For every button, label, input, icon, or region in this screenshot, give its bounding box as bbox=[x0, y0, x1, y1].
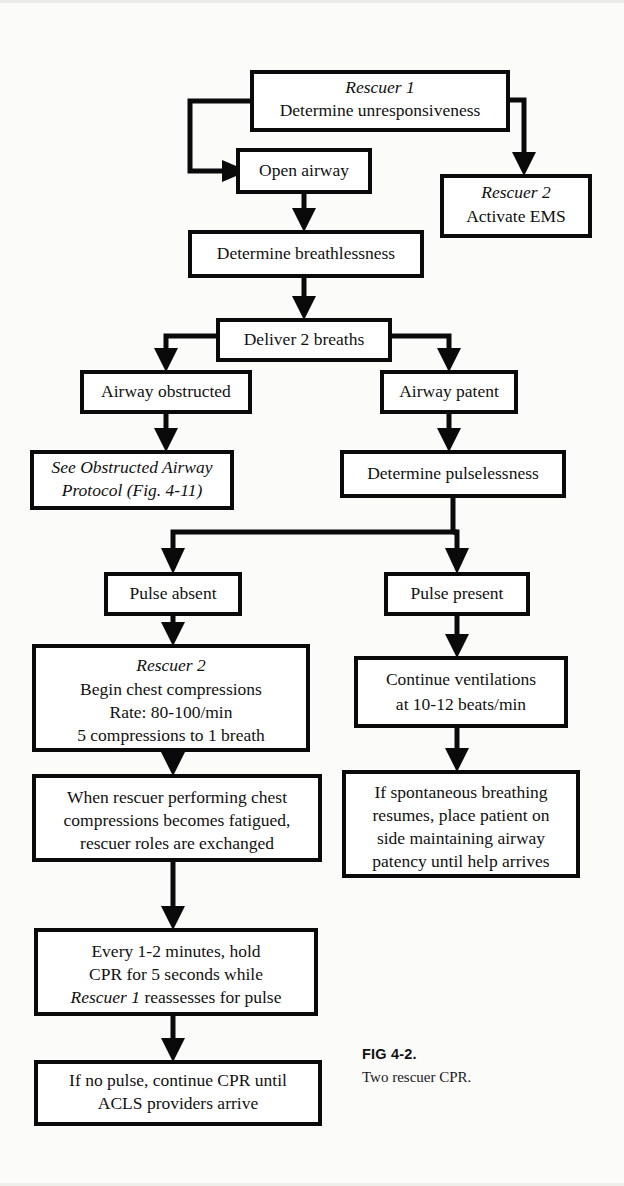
scan-edge-top bbox=[0, 0, 624, 3]
node-roles-exchanged-line-2: rescuer roles are exchanged bbox=[80, 833, 274, 853]
node-continue-ventilations-line-1: at 10-12 beats/min bbox=[396, 694, 527, 714]
connector-airway-patent-to-pulselessness bbox=[437, 412, 461, 452]
node-pulse-absent[interactable]: Pulse absent bbox=[106, 574, 240, 614]
node-spontaneous-breathing[interactable]: If spontaneous breathing resumes, place … bbox=[344, 772, 578, 876]
node-determine-pulselessness[interactable]: Determine pulselessness bbox=[342, 452, 564, 496]
node-acls-arrive-line-0: If no pulse, continue CPR until bbox=[69, 1070, 287, 1090]
node-reassess-pulse-lead: Rescuer 1 bbox=[70, 987, 141, 1007]
node-spontaneous-breathing-line-0: If spontaneous breathing bbox=[374, 782, 547, 802]
node-continue-ventilations-line-0: Continue ventilations bbox=[386, 669, 536, 689]
node-acls-arrive-line-1: ACLS providers arrive bbox=[98, 1093, 259, 1113]
connector-pulse-absent-to-compressions bbox=[161, 614, 185, 646]
node-determine-breathlessness-label: Determine breathlessness bbox=[217, 243, 396, 263]
figure-caption-text: Two rescuer CPR. bbox=[362, 1069, 471, 1086]
node-pulse-absent-label: Pulse absent bbox=[129, 583, 216, 603]
node-airway-patent[interactable]: Airway patent bbox=[382, 372, 516, 412]
node-pulse-present[interactable]: Pulse present bbox=[386, 574, 528, 614]
connector-deliver-breaths-to-airway-patent bbox=[390, 336, 461, 372]
node-determine-breathlessness[interactable]: Determine breathlessness bbox=[190, 232, 422, 276]
node-begin-compressions-line-2: Rate: 80-100/min bbox=[110, 702, 233, 722]
node-deliver-2-breaths[interactable]: Deliver 2 breaths bbox=[218, 320, 390, 360]
connector-reassess-to-acls bbox=[161, 1014, 185, 1062]
connector-ventilations-to-spontaneous-breathing bbox=[445, 726, 469, 772]
node-pulse-present-label: Pulse present bbox=[411, 583, 504, 603]
node-determine-pulselessness-label: Determine pulselessness bbox=[367, 463, 539, 483]
node-open-airway-label: Open airway bbox=[259, 160, 349, 180]
node-deliver-2-breaths-label: Deliver 2 breaths bbox=[244, 329, 365, 349]
node-spontaneous-breathing-line-2: side maintaining airway bbox=[377, 828, 545, 848]
node-rescuer1-line-1: Determine unresponsiveness bbox=[280, 100, 481, 120]
node-obstructed-protocol[interactable]: See Obstructed Airway Protocol (Fig. 4-1… bbox=[32, 452, 232, 508]
connector-pulselessness-to-pulse-present bbox=[445, 532, 469, 574]
node-spontaneous-breathing-line-1: resumes, place patient on bbox=[373, 805, 550, 825]
node-rescuer1[interactable]: Rescuer 1 Determine unresponsiveness bbox=[252, 72, 508, 130]
node-reassess-pulse-line-2: Rescuer 1 reassesses for pulse bbox=[70, 987, 282, 1007]
flowchart-canvas: Rescuer 1 Determine unresponsiveness Ope… bbox=[0, 0, 624, 1186]
node-reassess-pulse-line-1: CPR for 5 seconds while bbox=[89, 964, 263, 984]
figure-page: Rescuer 1 Determine unresponsiveness Ope… bbox=[0, 0, 624, 1186]
node-roles-exchanged-line-0: When rescuer performing chest bbox=[67, 787, 287, 807]
connector-open-airway-to-breathlessness bbox=[292, 192, 316, 232]
node-continue-ventilations[interactable]: Continue ventilations at 10-12 beats/min bbox=[356, 658, 566, 726]
node-acls-arrive[interactable]: If no pulse, continue CPR until ACLS pro… bbox=[36, 1062, 320, 1124]
node-begin-compressions-line-1: Begin chest compressions bbox=[80, 679, 262, 699]
node-rescuer2-ems[interactable]: Rescuer 2 Activate EMS bbox=[442, 176, 590, 236]
node-roles-exchanged[interactable]: When rescuer performing chest compressio… bbox=[34, 776, 320, 860]
connector-airway-obstructed-to-protocol bbox=[154, 412, 178, 452]
node-airway-patent-label: Airway patent bbox=[399, 381, 499, 401]
connector-breathlessness-to-deliver-breaths bbox=[292, 276, 316, 320]
node-begin-compressions-line-0: Rescuer 2 bbox=[135, 655, 206, 675]
node-rescuer2-ems-line-0: Rescuer 2 bbox=[480, 182, 551, 202]
node-airway-obstructed-label: Airway obstructed bbox=[101, 381, 231, 401]
node-airway-obstructed[interactable]: Airway obstructed bbox=[82, 372, 250, 412]
node-obstructed-protocol-line-1: Protocol (Fig. 4-11) bbox=[61, 480, 203, 500]
node-rescuer1-line-0: Rescuer 1 bbox=[344, 77, 415, 97]
node-open-airway[interactable]: Open airway bbox=[238, 150, 370, 192]
node-spontaneous-breathing-line-3: patency until help arrives bbox=[372, 851, 550, 871]
node-reassess-pulse-rest: reassesses for pulse bbox=[140, 987, 282, 1007]
node-reassess-pulse-line-0: Every 1-2 minutes, hold bbox=[91, 941, 260, 961]
node-obstructed-protocol-line-0: See Obstructed Airway bbox=[51, 457, 212, 477]
node-roles-exchanged-line-1: compressions becomes fatigued, bbox=[64, 810, 291, 830]
node-reassess-pulse[interactable]: Every 1-2 minutes, hold CPR for 5 second… bbox=[36, 930, 316, 1014]
connector-rescuer1-to-rescuer2-ems bbox=[508, 100, 536, 176]
connector-compressions-to-roles-exchanged bbox=[161, 750, 185, 776]
node-begin-compressions[interactable]: Rescuer 2 Begin chest compressions Rate:… bbox=[34, 646, 308, 750]
connector-deliver-breaths-to-airway-obstructed bbox=[154, 336, 218, 372]
connector-roles-exchanged-to-reassess bbox=[161, 860, 185, 930]
node-begin-compressions-line-3: 5 compressions to 1 breath bbox=[77, 725, 265, 745]
node-rescuer2-ems-line-1: Activate EMS bbox=[466, 206, 566, 226]
figure-caption-label: FIG 4-2. bbox=[362, 1046, 417, 1062]
connector-pulse-present-to-ventilations bbox=[445, 614, 469, 658]
